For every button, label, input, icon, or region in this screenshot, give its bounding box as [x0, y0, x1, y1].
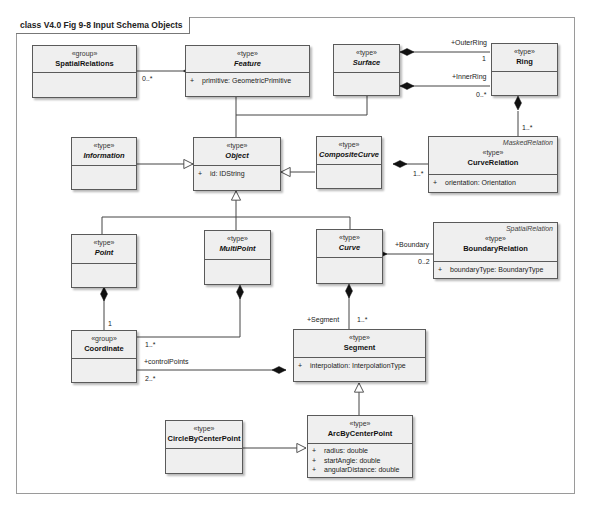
class-composite-curve[interactable]: «type» CompositeCurve: [316, 136, 382, 189]
attribute: +id: IDString: [198, 169, 276, 179]
diagram-frame-title: class V4.0 Fig 9-8 Input Schema Objects: [16, 17, 190, 34]
composition-diamond: [515, 96, 522, 110]
multipoint-coordinate-composition: [137, 292, 240, 337]
surface-object-generalization: [236, 96, 367, 115]
role-label: +OuterRing: [451, 39, 487, 46]
multiplicity-label: 0..*: [476, 91, 487, 98]
class-boundary-relation[interactable]: SpatialRelation «type» BoundaryRelation …: [433, 222, 558, 279]
class-coordinate[interactable]: «group» Coordinate: [71, 330, 137, 383]
composition-diamond: [393, 161, 407, 168]
class-spatial-relations[interactable]: «group» SpatialRelations: [32, 45, 137, 98]
attribute: +primitive: GeometricPrimitive: [190, 76, 305, 86]
composition-diamond: [400, 83, 414, 90]
multiplicity-label: 1..*: [413, 170, 424, 177]
class-multi-point[interactable]: «type» MultiPoint: [204, 230, 271, 285]
class-feature[interactable]: «type» Feature +primitive: GeometricPrim…: [185, 45, 310, 97]
class-curve[interactable]: «type» Curve: [316, 229, 383, 284]
class-information[interactable]: «type» Information: [71, 137, 137, 190]
class-point[interactable]: «type» Point: [71, 234, 137, 288]
class-circle-by-center-point[interactable]: «type» CircleByCenterPoint: [165, 420, 243, 474]
attribute: +radius: double: [312, 446, 408, 456]
multiplicity-label: 0..2: [418, 258, 430, 265]
class-ring[interactable]: «type» Ring: [491, 43, 558, 96]
multiplicity-label: 1: [482, 55, 486, 62]
multiplicity-label: 1..*: [357, 316, 368, 323]
role-label: +Boundary: [395, 241, 429, 248]
class-object[interactable]: «type» Object +id: IDString: [193, 137, 281, 191]
class-curve-relation[interactable]: MaskedRelation «type» CurveRelation +ori…: [428, 136, 558, 193]
class-arc-by-center-point[interactable]: «type» ArcByCenterPoint +radius: double …: [307, 415, 413, 478]
attribute: +orientation: Orientation: [433, 178, 553, 188]
multiplicity-label: 1..*: [145, 341, 156, 348]
composition-diamond: [400, 49, 414, 56]
multiplicity-label: 2..*: [145, 375, 156, 382]
multiplicity-label: 1..*: [522, 124, 533, 131]
composition-diamond: [346, 284, 353, 298]
multiplicity-label: 0..*: [142, 75, 153, 82]
role-label: +controlPoints: [144, 358, 189, 365]
composition-diamond: [272, 367, 286, 374]
composition-diamond: [237, 285, 244, 299]
composition-diamond: [101, 287, 108, 301]
attribute: +boundaryType: BoundaryType: [438, 265, 553, 275]
attribute: +angularDistance: double: [312, 465, 408, 475]
role-label: +Segment: [307, 316, 339, 323]
class-surface[interactable]: «type» Surface: [333, 44, 400, 96]
attribute: +interpolation: InterpolationType: [298, 361, 421, 371]
role-label: +InnerRing: [452, 73, 486, 80]
attribute: +startAngle: double: [312, 456, 408, 466]
class-segment[interactable]: «type» Segment +interpolation: Interpola…: [293, 329, 426, 382]
multiplicity-label: 1: [108, 320, 112, 327]
